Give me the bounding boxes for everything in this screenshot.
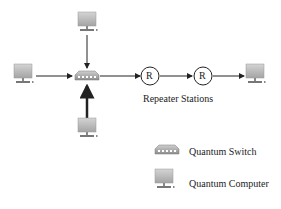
repeater-caption: Repeater Stations: [143, 93, 213, 104]
legend-computer-label: Quantum Computer: [189, 178, 269, 189]
quantum-computer-top-icon: [78, 12, 98, 31]
quantum-computer-right-icon: [246, 64, 266, 83]
legend-switch-icon: [155, 145, 179, 154]
legend-computer-icon: [155, 169, 175, 188]
quantum-computer-left-icon: [14, 64, 34, 83]
repeater-2-label: R: [199, 70, 206, 81]
repeater-1-label: R: [146, 70, 153, 81]
legend-switch-label: Quantum Switch: [189, 146, 257, 157]
quantum-switch-icon: [75, 71, 99, 80]
quantum-computer-bottom-icon: [78, 118, 98, 137]
